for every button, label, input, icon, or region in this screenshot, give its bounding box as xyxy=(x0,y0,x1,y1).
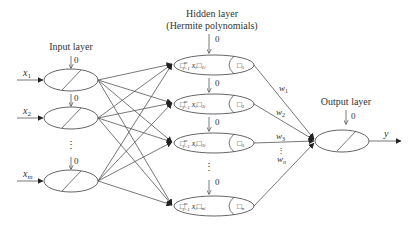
hermite-neural-network-diagram: Input layer 0 x1 0 x2 ⋮ 0 xm xyxy=(0,0,416,227)
output-y-label: y xyxy=(383,128,389,139)
bias-label: 0 xyxy=(74,156,79,166)
input-x1-label: x1 xyxy=(22,67,31,80)
input-xm-label: xm xyxy=(22,168,33,181)
input-layer: Input layer 0 x1 0 x2 ⋮ 0 xm xyxy=(17,41,98,192)
hidden-node-1: 0 □mi=1xi□1i □1 xyxy=(174,34,254,75)
weight-labels: w1 w2 w3 ⋮ wn xyxy=(276,83,288,165)
hidden-layer-sublabel: (Hermite polynomials) xyxy=(166,20,257,32)
hidden-node-n: 0 □mi=1xi□ni □n xyxy=(174,177,254,216)
input-node-m: 0 xm xyxy=(17,156,98,192)
weight-w1-label: w1 xyxy=(279,83,288,94)
ellipsis-icon: ⋮ xyxy=(204,161,214,172)
bias-label: 0 xyxy=(74,55,79,65)
output-layer-label: Output layer xyxy=(321,96,372,107)
input-x2-label: x2 xyxy=(22,105,31,118)
input-layer-label: Input layer xyxy=(49,41,93,52)
input-node-2: 0 x2 xyxy=(17,93,98,129)
bias-label: 0 xyxy=(215,117,220,127)
hidden-node-3: 0 □mi=1xi□3i □3 xyxy=(174,117,254,153)
output-layer: Output layer 0 y xyxy=(315,96,401,152)
weight-wn-label: wn xyxy=(277,154,286,165)
hidden-layer: Hidden layer (Hermite polynomials) 0 □mi… xyxy=(166,8,257,216)
input-hidden-connections xyxy=(98,64,172,205)
hidden-layer-label: Hidden layer xyxy=(186,8,239,19)
weight-w3-label: w3 xyxy=(276,131,285,142)
hidden-node-2: 0 □mi=1xi□2i □2 xyxy=(174,78,254,114)
bias-label: 0 xyxy=(215,78,220,88)
bias-label: 0 xyxy=(351,111,356,121)
bias-label: 0 xyxy=(215,177,220,187)
bias-label: 0 xyxy=(215,34,220,44)
bias-label: 0 xyxy=(74,93,79,103)
input-node-1: 0 x1 xyxy=(17,55,98,91)
ellipsis-icon: ⋮ xyxy=(66,139,76,150)
weight-w2-label: w2 xyxy=(276,107,285,118)
